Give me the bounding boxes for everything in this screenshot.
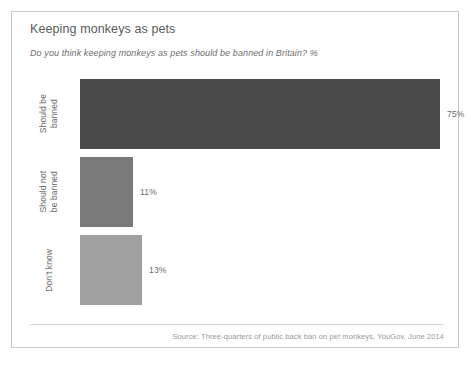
bar-row: Should notbe banned11% — [12, 157, 460, 227]
category-label: Should notbe banned — [26, 157, 72, 227]
bar-row: Should bebanned75% — [12, 79, 460, 149]
category-label-text: Should bebanned — [38, 94, 59, 133]
bar-chart-plot-area: Should bebanned75%Should notbe banned11%… — [12, 12, 460, 349]
source-note: Source: Three-quarters of public back ba… — [172, 332, 444, 341]
category-label: Don't know — [26, 235, 72, 305]
bar-row: Don't know13% — [12, 235, 460, 305]
source-divider — [30, 324, 444, 325]
category-label-text: Should notbe banned — [38, 171, 59, 213]
bar — [80, 79, 440, 149]
bar-value-label: 13% — [149, 235, 167, 305]
bar-value-label: 75% — [447, 79, 465, 149]
chart-card: Keeping monkeys as pets Do you think kee… — [11, 11, 459, 348]
category-label: Should bebanned — [26, 79, 72, 149]
bar — [80, 157, 133, 227]
bar — [80, 235, 142, 305]
category-label-text: Don't know — [44, 249, 55, 292]
bar-value-label: 11% — [140, 157, 157, 227]
